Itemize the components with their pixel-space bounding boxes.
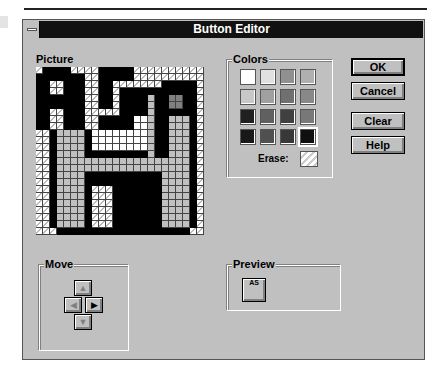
pixel-cell[interactable]: [176, 151, 183, 158]
pixel-cell[interactable]: [71, 137, 78, 144]
pixel-cell[interactable]: [197, 102, 204, 109]
pixel-cell[interactable]: [36, 102, 43, 109]
pixel-cell[interactable]: [134, 95, 141, 102]
pixel-cell[interactable]: [106, 95, 113, 102]
pixel-cell[interactable]: [148, 116, 155, 123]
pixel-cell[interactable]: [134, 179, 141, 186]
pixel-cell[interactable]: [50, 123, 57, 130]
pixel-cell[interactable]: [71, 109, 78, 116]
pixel-cell[interactable]: [134, 151, 141, 158]
pixel-cell[interactable]: [155, 116, 162, 123]
pixel-cell[interactable]: [183, 130, 190, 137]
pixel-cell[interactable]: [57, 186, 64, 193]
pixel-cell[interactable]: [169, 95, 176, 102]
pixel-cell[interactable]: [169, 137, 176, 144]
pixel-cell[interactable]: [162, 214, 169, 221]
pixel-cell[interactable]: [57, 200, 64, 207]
pixel-cell[interactable]: [64, 95, 71, 102]
pixel-cell[interactable]: [85, 130, 92, 137]
pixel-cell[interactable]: [127, 186, 134, 193]
pixel-cell[interactable]: [99, 67, 106, 74]
pixel-cell[interactable]: [155, 109, 162, 116]
pixel-cell[interactable]: [57, 158, 64, 165]
pixel-cell[interactable]: [134, 165, 141, 172]
pixel-cell[interactable]: [155, 130, 162, 137]
pixel-cell[interactable]: [183, 172, 190, 179]
pixel-cell[interactable]: [169, 81, 176, 88]
pixel-cell[interactable]: [57, 144, 64, 151]
pixel-cell[interactable]: [155, 67, 162, 74]
pixel-cell[interactable]: [148, 144, 155, 151]
pixel-cell[interactable]: [113, 214, 120, 221]
color-swatch[interactable]: [300, 89, 316, 105]
pixel-cell[interactable]: [141, 81, 148, 88]
pixel-cell[interactable]: [162, 207, 169, 214]
pixel-cell[interactable]: [169, 151, 176, 158]
pixel-cell[interactable]: [78, 116, 85, 123]
pixel-cell[interactable]: [106, 102, 113, 109]
pixel-cell[interactable]: [141, 193, 148, 200]
pixel-cell[interactable]: [36, 74, 43, 81]
pixel-cell[interactable]: [162, 130, 169, 137]
pixel-cell[interactable]: [148, 179, 155, 186]
pixel-cell[interactable]: [106, 165, 113, 172]
pixel-cell[interactable]: [106, 179, 113, 186]
pixel-cell[interactable]: [64, 81, 71, 88]
pixel-cell[interactable]: [120, 109, 127, 116]
pixel-cell[interactable]: [134, 221, 141, 228]
pixel-cell[interactable]: [183, 207, 190, 214]
erase-swatch[interactable]: [300, 151, 318, 167]
pixel-cell[interactable]: [43, 130, 50, 137]
pixel-cell[interactable]: [183, 116, 190, 123]
pixel-cell[interactable]: [127, 214, 134, 221]
pixel-cell[interactable]: [36, 207, 43, 214]
pixel-cell[interactable]: [71, 144, 78, 151]
pixel-cell[interactable]: [148, 67, 155, 74]
pixel-cell[interactable]: [43, 207, 50, 214]
pixel-cell[interactable]: [78, 228, 85, 235]
pixel-cell[interactable]: [85, 144, 92, 151]
pixel-cell[interactable]: [99, 165, 106, 172]
pixel-cell[interactable]: [64, 116, 71, 123]
pixel-cell[interactable]: [155, 228, 162, 235]
color-swatch[interactable]: [260, 129, 276, 145]
pixel-cell[interactable]: [190, 207, 197, 214]
pixel-cell[interactable]: [99, 179, 106, 186]
pixel-cell[interactable]: [64, 186, 71, 193]
pixel-cell[interactable]: [85, 88, 92, 95]
pixel-cell[interactable]: [64, 221, 71, 228]
pixel-cell[interactable]: [183, 186, 190, 193]
pixel-cell[interactable]: [106, 137, 113, 144]
color-swatch[interactable]: [260, 109, 276, 125]
move-down-button[interactable]: ▼: [74, 314, 92, 330]
pixel-cell[interactable]: [148, 165, 155, 172]
pixel-cell[interactable]: [113, 109, 120, 116]
pixel-cell[interactable]: [155, 172, 162, 179]
system-menu-button[interactable]: [24, 21, 40, 38]
pixel-cell[interactable]: [99, 151, 106, 158]
pixel-cell[interactable]: [113, 81, 120, 88]
pixel-cell[interactable]: [43, 109, 50, 116]
pixel-cell[interactable]: [169, 172, 176, 179]
pixel-cell[interactable]: [190, 144, 197, 151]
pixel-cell[interactable]: [176, 144, 183, 151]
pixel-cell[interactable]: [43, 95, 50, 102]
pixel-cell[interactable]: [50, 158, 57, 165]
pixel-cell[interactable]: [36, 88, 43, 95]
pixel-cell[interactable]: [64, 193, 71, 200]
pixel-cell[interactable]: [155, 200, 162, 207]
pixel-cell[interactable]: [127, 123, 134, 130]
pixel-cell[interactable]: [190, 186, 197, 193]
pixel-cell[interactable]: [155, 102, 162, 109]
pixel-cell[interactable]: [36, 179, 43, 186]
pixel-cell[interactable]: [127, 74, 134, 81]
pixel-cell[interactable]: [148, 88, 155, 95]
pixel-cell[interactable]: [71, 95, 78, 102]
pixel-cell[interactable]: [50, 109, 57, 116]
pixel-cell[interactable]: [113, 165, 120, 172]
pixel-cell[interactable]: [120, 151, 127, 158]
pixel-cell[interactable]: [162, 144, 169, 151]
pixel-cell[interactable]: [57, 81, 64, 88]
pixel-cell[interactable]: [113, 123, 120, 130]
pixel-cell[interactable]: [190, 228, 197, 235]
